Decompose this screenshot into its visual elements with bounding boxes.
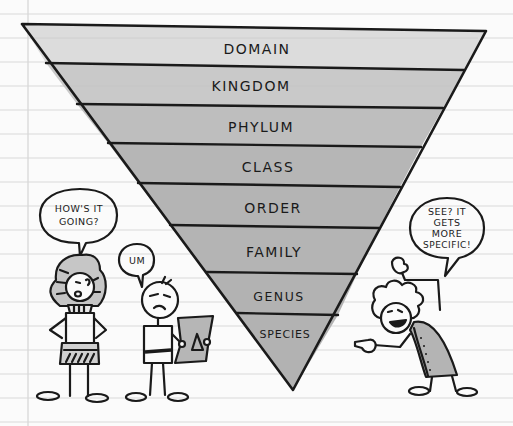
pharaoh-character [37, 255, 108, 402]
diagram-canvas: DOMAIN KINGDOM PHYLUM CLASS ORDER FAMILY… [0, 0, 513, 426]
notebook-page: DOMAIN KINGDOM PHYLUM CLASS ORDER FAMILY… [0, 0, 513, 426]
speech-text-line2: GOING? [59, 216, 99, 227]
level-label-order: ORDER [244, 200, 302, 216]
speech-text-line4: SPECIFIC! [423, 240, 471, 250]
speech-text-line3: MORE [432, 228, 462, 239]
band-species [237, 313, 338, 390]
speech-bubble-scholar: SEE? IT GETS MORE SPECIFIC! [410, 198, 484, 276]
level-label-genus: GENUS [253, 289, 305, 304]
level-label-species: SPECIES [259, 328, 310, 341]
level-label-phylum: PHYLUM [228, 119, 294, 135]
speech-text: UM [129, 255, 145, 266]
speech-bubble-pharaoh: HOW'S IT GOING? [40, 189, 117, 256]
level-label-family: FAMILY [246, 244, 302, 260]
level-label-kingdom: KINGDOM [211, 78, 290, 94]
level-label-domain: DOMAIN [223, 41, 290, 57]
speech-bubble-boy: UM [119, 244, 154, 287]
boy-character [126, 277, 213, 401]
speech-text-line2: GETS [433, 217, 460, 228]
level-label-class: CLASS [242, 159, 295, 175]
speech-text-line1: HOW'S IT [55, 203, 103, 214]
speech-text-line1: SEE? IT [428, 206, 466, 217]
